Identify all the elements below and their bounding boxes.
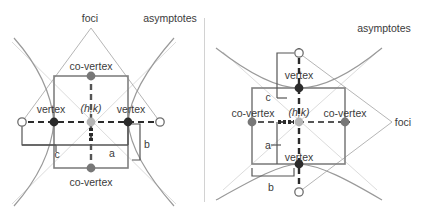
label-vertex-right: vertex	[117, 103, 146, 115]
left-diagram-panel: foci asymptotes co-vertex co-vertex vert…	[0, 0, 212, 220]
b-bracket-right	[252, 168, 294, 176]
label-center-right: (h,k)	[289, 106, 310, 118]
label-c-left: c	[54, 148, 59, 160]
label-b-right: b	[268, 181, 274, 193]
label-vertex-bottom: vertex	[285, 151, 314, 163]
label-c-right: c	[265, 91, 270, 103]
vertex-top-point	[295, 84, 304, 93]
label-b-left: b	[144, 138, 150, 150]
label-foci-left: foci	[82, 12, 98, 24]
label-a-right: a	[265, 139, 271, 151]
panel-divider	[204, 18, 205, 202]
label-a-left: a	[109, 147, 115, 159]
vertex-right-point	[124, 118, 133, 127]
focus-bottom-point	[295, 188, 303, 196]
co-vertex-bottom-point	[87, 164, 96, 173]
right-diagram-svg: asymptotes foci vertex vertex co-vertex …	[211, 0, 423, 220]
hyperbola-figure: foci asymptotes co-vertex co-vertex vert…	[0, 0, 423, 220]
label-asymptotes-right: asymptotes	[357, 22, 411, 34]
right-diagram-panel: asymptotes foci vertex vertex co-vertex …	[211, 0, 423, 220]
label-vertex-left: vertex	[37, 103, 66, 115]
label-co-vertex-right: co-vertex	[323, 107, 367, 119]
left-diagram-svg: foci asymptotes co-vertex co-vertex vert…	[0, 0, 212, 220]
label-co-vertex-bottom-left: co-vertex	[69, 176, 113, 188]
focus-top-point	[295, 49, 303, 57]
label-co-vertex-left: co-vertex	[231, 107, 275, 119]
center-point-right	[295, 118, 304, 127]
focus-left-point	[18, 118, 26, 126]
label-co-vertex-top-left: co-vertex	[69, 60, 113, 72]
label-foci-right: foci	[395, 116, 411, 128]
center-point-left	[87, 118, 96, 127]
vertex-left-point	[50, 118, 59, 127]
focus-right-point	[156, 118, 164, 126]
label-asymptotes-left: asymptotes	[143, 12, 197, 24]
co-vertex-top-point	[87, 72, 96, 81]
label-center-left: (h,k)	[81, 102, 102, 114]
label-vertex-top: vertex	[285, 69, 314, 81]
